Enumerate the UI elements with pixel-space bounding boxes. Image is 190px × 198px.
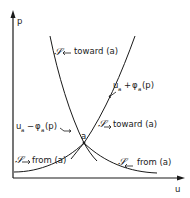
- expr-u-sub: a: [118, 86, 121, 92]
- label-text: toward (a): [113, 119, 157, 129]
- expr-phi-sub: a: [138, 86, 141, 92]
- pointer-arrow-icon: [109, 92, 116, 97]
- expr-arg: (p): [45, 121, 57, 131]
- point-a-label: a: [81, 131, 86, 141]
- label-text: from (a): [32, 155, 66, 165]
- point-a-marker: [83, 142, 86, 145]
- label-mid-right: 𝒮 toward (a): [98, 118, 157, 129]
- s-symbol: 𝒮: [15, 154, 26, 165]
- expr-op: −: [27, 121, 34, 131]
- expr-op: +: [124, 80, 131, 90]
- s-symbol: 𝒮: [54, 46, 65, 57]
- expr-u-sub: a: [21, 127, 24, 133]
- s-symbol: 𝒮: [118, 156, 129, 167]
- wave-curve-diagram: p u a 𝒮 toward (a) u a + φ a (p) u a −: [0, 0, 190, 198]
- label-bottom-right: 𝒮 from (a): [118, 156, 171, 168]
- expr-phi-sub: a: [41, 127, 44, 133]
- u-axis-label: u: [175, 184, 180, 194]
- label-top-left: 𝒮 toward (a): [54, 46, 118, 57]
- expr-plus: u a + φ a (p): [109, 80, 154, 98]
- expr-minus: u a − φ a (p): [16, 121, 71, 133]
- p-axis-label: p: [17, 16, 22, 26]
- expr-arg: (p): [142, 80, 154, 90]
- p-axis-arrow-icon: [11, 10, 16, 18]
- curves: [14, 36, 157, 173]
- label-text: from (a): [137, 157, 171, 167]
- label-bottom-left: 𝒮 from (a): [15, 154, 66, 165]
- u-axis-arrow-icon: [177, 176, 185, 181]
- label-text: toward (a): [74, 46, 118, 56]
